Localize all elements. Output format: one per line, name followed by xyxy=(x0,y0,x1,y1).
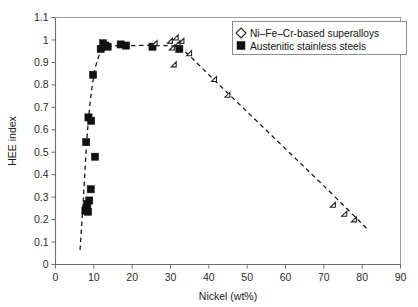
data-point-steel xyxy=(87,186,94,193)
y-tick-label: 0.2 xyxy=(34,213,49,225)
data-point-steel xyxy=(84,208,91,215)
data-point-steel xyxy=(86,197,93,204)
data-point-steel xyxy=(104,43,111,50)
y-tick-label: 1 xyxy=(43,34,49,46)
x-tick-label: 20 xyxy=(126,271,138,283)
x-tick-label: 40 xyxy=(203,271,215,283)
legend-filled-square-icon xyxy=(237,42,245,50)
y-tick-label: 0.7 xyxy=(34,101,49,113)
chart-figure: 00.10.20.30.40.50.60.70.80.911.1 0102030… xyxy=(0,0,418,307)
x-axis-title: Nickel (wt%) xyxy=(199,290,257,302)
data-point-steel xyxy=(122,42,129,49)
data-point-superalloy xyxy=(212,77,217,82)
y-axis-tick-labels: 00.10.20.30.40.50.60.70.80.911.1 xyxy=(34,11,49,270)
y-tick-label: 0.8 xyxy=(34,78,49,90)
y-tick-label: 0.9 xyxy=(34,56,49,68)
x-tick-label: 0 xyxy=(53,271,59,283)
y-tick-label: 0 xyxy=(43,258,49,270)
data-point-superalloy xyxy=(173,35,178,40)
y-tick-label: 0.1 xyxy=(34,236,49,248)
x-tick-label: 50 xyxy=(241,271,253,283)
x-tick-label: 80 xyxy=(356,271,368,283)
y-tick-label: 1.1 xyxy=(34,11,49,23)
y-tick-label: 0.6 xyxy=(34,123,49,135)
data-point-steel xyxy=(83,139,90,146)
x-tick-label: 70 xyxy=(318,271,330,283)
x-axis-ticks xyxy=(56,265,401,269)
data-point-steel xyxy=(85,114,92,121)
legend-marker-filled-square xyxy=(237,42,245,50)
x-tick-label: 10 xyxy=(88,271,100,283)
y-tick-label: 0.4 xyxy=(34,168,49,180)
data-point-steel xyxy=(91,153,98,160)
legend-label-steels: Austenitic stainless steels xyxy=(250,41,366,52)
scatter-plot: 00.10.20.30.40.50.60.70.80.911.1 0102030… xyxy=(0,0,418,307)
data-point-superalloy xyxy=(342,211,347,216)
y-tick-label: 0.5 xyxy=(34,146,49,158)
trend-curve xyxy=(80,45,368,249)
x-tick-label: 90 xyxy=(395,271,407,283)
x-axis-tick-labels: 0102030405060708090 xyxy=(53,271,407,283)
x-tick-label: 30 xyxy=(165,271,177,283)
data-point-superalloy xyxy=(167,38,172,43)
y-axis-ticks xyxy=(52,18,56,265)
data-point-superalloy xyxy=(171,62,176,67)
x-tick-label: 60 xyxy=(280,271,292,283)
legend-label-superalloys: Ni–Fe–Cr-based superalloys xyxy=(250,28,379,39)
y-tick-label: 0.3 xyxy=(34,191,49,203)
chart-legend: Ni–Fe–Cr-based superalloys Austenitic st… xyxy=(233,22,407,55)
y-axis-title: HEE index xyxy=(6,115,18,165)
data-point-steel xyxy=(89,71,96,78)
data-point-steel xyxy=(176,45,183,52)
data-point-superalloy xyxy=(351,217,356,222)
series-ni-fe-cr-superalloys xyxy=(152,35,356,222)
series-austenitic-stainless-steels xyxy=(82,40,183,216)
data-point-superalloy xyxy=(330,202,335,207)
